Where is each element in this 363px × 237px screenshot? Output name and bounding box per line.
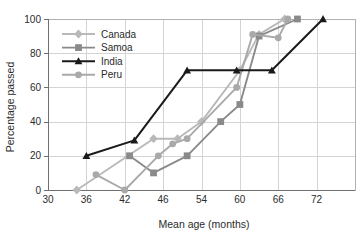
- data-point-marker-circle: [233, 84, 240, 91]
- data-point-marker-square: [236, 101, 243, 108]
- legend-item-samoa[interactable]: Samoa: [62, 42, 133, 53]
- data-point-marker-circle: [155, 152, 162, 159]
- x-tick-label: 42: [119, 194, 131, 205]
- legend-label: Peru: [101, 69, 122, 80]
- series-line: [130, 19, 298, 173]
- data-point-marker-diamond: [74, 30, 83, 39]
- data-point-marker-circle: [169, 140, 176, 147]
- y-axis-ticks: 020406080100: [24, 14, 48, 196]
- x-tick-label: 46: [158, 194, 170, 205]
- legend-label: India: [101, 56, 123, 67]
- legend-item-india[interactable]: India: [62, 56, 123, 67]
- chart-canvas: 3036424654606672 020406080100 Mean age (…: [0, 0, 363, 237]
- data-point-marker-circle: [249, 31, 256, 38]
- y-tick-label: 60: [30, 82, 42, 93]
- x-tick-label: 30: [42, 194, 54, 205]
- y-axis-title: Percentage passed: [4, 62, 16, 153]
- y-tick-label: 20: [30, 150, 42, 161]
- data-point-marker-circle: [184, 135, 191, 142]
- y-tick-label: 0: [35, 185, 41, 196]
- legend-label: Canada: [101, 29, 136, 40]
- data-point-marker-square: [150, 170, 157, 177]
- legend-label: Samoa: [101, 42, 133, 53]
- data-point-marker-square: [75, 44, 82, 51]
- y-tick-label: 40: [30, 116, 42, 127]
- legend-item-peru[interactable]: Peru: [62, 69, 122, 80]
- x-axis-ticks: 3036424654606672: [42, 194, 322, 205]
- data-point-marker-square: [184, 152, 191, 159]
- x-tick-label: 36: [81, 194, 93, 205]
- data-point-marker-circle: [93, 171, 100, 178]
- data-point-marker-circle: [275, 34, 282, 41]
- data-point-marker-circle: [75, 71, 82, 78]
- x-tick-label: 60: [234, 194, 246, 205]
- data-point-marker-circle: [121, 187, 128, 194]
- y-tick-label: 80: [30, 48, 42, 59]
- data-point-marker-circle: [284, 16, 291, 23]
- data-point-marker-square: [294, 16, 301, 23]
- series-samoa: [126, 16, 301, 177]
- y-tick-label: 100: [24, 14, 41, 25]
- data-point-marker-square: [217, 118, 224, 125]
- x-tick-label: 66: [273, 194, 285, 205]
- line-chart: 3036424654606672 020406080100 Mean age (…: [0, 0, 363, 237]
- x-axis-title: Mean age (months): [158, 218, 249, 230]
- x-tick-label: 54: [196, 194, 208, 205]
- data-point-marker-triangle: [319, 15, 327, 22]
- legend-item-canada[interactable]: Canada: [62, 29, 136, 40]
- plot-frame: [48, 19, 356, 191]
- data-point-marker-square: [126, 152, 133, 159]
- x-tick-label: 72: [311, 194, 323, 205]
- grid-layer: [48, 19, 355, 191]
